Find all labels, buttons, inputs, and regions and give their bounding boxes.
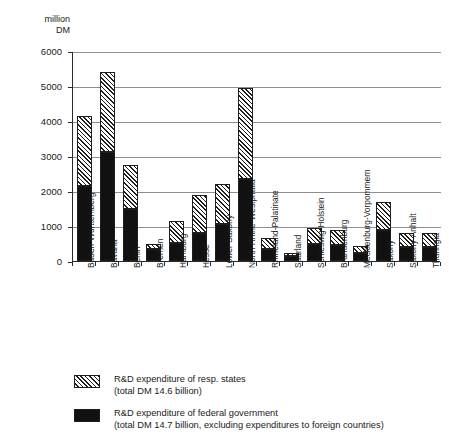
x-axis-label-mecklenburg-vorpommern: Mecklenburg-Vorpommern [363,169,372,268]
x-axis-tick-mark [348,262,349,266]
bar-segment-states [123,165,137,209]
y-axis-tick-label: 4000 [14,117,62,127]
x-axis-label-north-rhine-westphalia: North Rhine-Westphalia [248,179,257,268]
legend-label-states: R&D expenditure of resp. states [114,374,440,386]
y-axis-tick-mark [68,87,73,88]
legend-sublabel-federal: (total DM 14.7 billion, excluding expend… [114,420,440,432]
x-axis-tick-mark [302,262,303,266]
gridline [73,52,441,53]
x-axis-tick-mark [118,262,119,266]
bar-segment-states [100,72,114,152]
bar-segment-states [376,202,390,229]
y-axis-tick-mark [68,192,73,193]
chart-legend: R&D expenditure of resp. states (total D… [74,374,440,434]
x-axis-tick-mark [187,262,188,266]
x-axis-tick-mark [417,262,418,266]
x-axis-tick-mark [233,262,234,266]
x-axis-tick-mark [325,262,326,266]
x-axis-label-lower-saxony: Lower Saxony [225,215,234,268]
y-axis-tick-mark [68,52,73,53]
y-axis-tick-mark [68,227,73,228]
y-axis-tick-label: 2000 [14,187,62,197]
legend-label-federal: R&D expenditure of federal government [114,408,440,420]
y-axis-tick-label: 3000 [14,152,62,162]
y-axis-unit-caption: million DM [8,14,70,36]
y-axis-tick-label: 5000 [14,82,62,92]
x-axis-label-brandenburg: Brandenburg [340,220,349,268]
x-axis-tick-mark [210,262,211,266]
x-axis-tick-mark [440,262,441,266]
y-axis-tick-label: 1000 [14,222,62,232]
x-axis-label-saxony-anhalt: Saxony-Anhalt [409,214,418,268]
x-axis-tick-mark [72,262,73,266]
x-axis-label-baden-w-rttemberg: Baden-Württemberg [87,193,96,268]
x-axis-tick-mark [279,262,280,266]
y-axis-tick-mark [68,122,73,123]
x-axis-tick-mark [164,262,165,266]
gridline [73,122,441,123]
x-axis-tick-mark [371,262,372,266]
bar-segment-states [192,195,206,234]
x-axis-tick-mark [256,262,257,266]
y-axis-tick-label: 6000 [14,47,62,57]
legend-swatch-solid-icon [74,409,100,422]
bar-bavaria [100,72,114,261]
x-axis-tick-mark [141,262,142,266]
legend-item-federal: R&D expenditure of federal government (t… [74,408,440,434]
legend-item-states: R&D expenditure of resp. states (total D… [74,374,440,400]
gridline [73,157,441,158]
chart-container: million DM Baden-WürttembergBavariaBerli… [0,0,449,447]
legend-sublabel-states: (total DM 14.6 billion) [114,386,440,398]
x-axis-label-rhineland-palatinate: Rhineland-Palatinate [271,190,280,268]
bar-segment-states [238,88,252,179]
bar-segment-states [77,116,91,186]
y-axis-tick-label: 0 [14,257,62,267]
x-axis-label-schleswig-holstein: Schleswig-Holstein [317,197,326,268]
legend-swatch-hatched-icon [74,375,100,388]
y-axis-tick-mark [68,157,73,158]
x-axis-tick-mark [394,262,395,266]
x-axis-tick-mark [95,262,96,266]
gridline [73,87,441,88]
